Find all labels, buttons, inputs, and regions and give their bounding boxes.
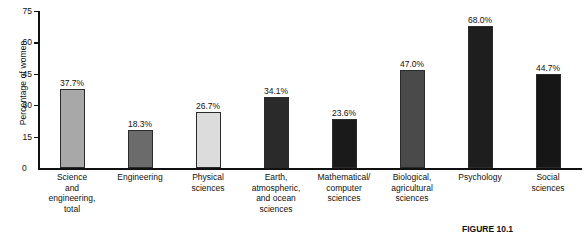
- x-axis-category-label-line: sciences: [233, 204, 319, 215]
- figure-root: Percentage of women 0 1530456075 37.7%18…: [0, 0, 586, 234]
- bar[interactable]: 26.7%: [196, 112, 221, 168]
- bar[interactable]: 37.7%: [60, 89, 85, 168]
- x-axis-category-label-line: sciences: [369, 193, 455, 204]
- y-axis-line: [38, 11, 40, 168]
- y-axis-tick-mark: [34, 74, 38, 75]
- bar[interactable]: 23.6%: [332, 119, 357, 168]
- y-axis-zero-label: 0: [22, 163, 27, 173]
- bar-value-label: 23.6%: [332, 108, 356, 118]
- x-axis-category-label-line: sciences: [505, 183, 586, 194]
- x-axis-line: [38, 168, 582, 170]
- bar-slot: 37.7%: [60, 11, 85, 168]
- bar[interactable]: 68.0%: [468, 26, 493, 168]
- y-axis-tick-label: 45: [23, 69, 32, 79]
- x-axis-category-label-line: and: [29, 183, 115, 194]
- bar-slot: 18.3%: [128, 11, 153, 168]
- x-axis-category-label-line: engineering,: [29, 193, 115, 204]
- bar-value-label: 26.7%: [196, 101, 220, 111]
- y-axis-tick-label: 75: [23, 6, 32, 16]
- x-axis-category-label: Socialsciences: [505, 172, 586, 193]
- x-axis-category-label-line: agricultural: [369, 183, 455, 194]
- bar-value-label: 44.7%: [536, 63, 560, 73]
- bar-slot: 26.7%: [196, 11, 221, 168]
- bar-slot: 44.7%: [536, 11, 561, 168]
- bar-value-label: 18.3%: [128, 119, 152, 129]
- bar[interactable]: 18.3%: [128, 130, 153, 168]
- x-axis-category-label-line: Social: [505, 172, 586, 183]
- bar-slot: 23.6%: [332, 11, 357, 168]
- bar-slot: 68.0%: [468, 11, 493, 168]
- y-axis-tick-label: 60: [23, 37, 32, 47]
- bar-slot: 34.1%: [264, 11, 289, 168]
- bar[interactable]: 34.1%: [264, 97, 289, 168]
- y-axis-tick-label: 15: [23, 132, 32, 142]
- bar[interactable]: 44.7%: [536, 74, 561, 168]
- bar-value-label: 47.0%: [400, 59, 424, 69]
- bar-value-label: 68.0%: [468, 15, 492, 25]
- bar-slot: 47.0%: [400, 11, 425, 168]
- figure-caption: FIGURE 10.1: [462, 224, 513, 234]
- y-axis-tick-mark: [34, 11, 38, 12]
- plot-area: 1530456075 37.7%18.3%26.7%34.1%23.6%47.0…: [38, 11, 582, 168]
- y-axis-tick-mark: [34, 137, 38, 138]
- bar[interactable]: 47.0%: [400, 70, 425, 168]
- bar-value-label: 37.7%: [60, 78, 84, 88]
- x-axis-category-label-line: total: [29, 204, 115, 215]
- bar-value-label: 34.1%: [264, 86, 288, 96]
- y-axis-tick-label: 30: [23, 100, 32, 110]
- y-axis-tick-mark: [34, 42, 38, 43]
- x-axis-category-labels: Scienceandengineering,totalEngineeringPh…: [38, 172, 582, 228]
- y-axis-tick-mark: [34, 105, 38, 106]
